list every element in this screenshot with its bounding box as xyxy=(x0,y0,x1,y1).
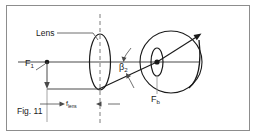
label-f1-base: F xyxy=(25,58,31,68)
label-fb-subscript: b xyxy=(157,98,160,105)
label-f1-subscript: 1 xyxy=(31,62,34,69)
f1-leader-line xyxy=(36,64,45,70)
label-focal-length: flens xyxy=(66,100,77,108)
figure-caption: Fig. 11 xyxy=(17,107,42,116)
focal-point-dot-fb xyxy=(154,59,159,64)
label-focal-length-subscript: lens xyxy=(68,104,77,109)
dimension-arrow-left xyxy=(60,102,66,107)
label-beta2-subscript: 2 xyxy=(124,66,127,73)
label-f1: F1 xyxy=(25,59,34,68)
object-arrow-head xyxy=(44,82,50,89)
label-lens: Lens xyxy=(36,29,54,38)
retina-arrowhead-icon xyxy=(194,34,202,41)
optical-diagram xyxy=(0,0,257,137)
label-fb-base: F xyxy=(151,94,157,104)
figure-container: Lens F1 β2 Fb flens Fig. 11 xyxy=(0,0,257,137)
label-beta2: β2 xyxy=(119,63,128,72)
label-fb: Fb xyxy=(151,95,160,104)
dimension-arrow-right xyxy=(96,102,102,107)
